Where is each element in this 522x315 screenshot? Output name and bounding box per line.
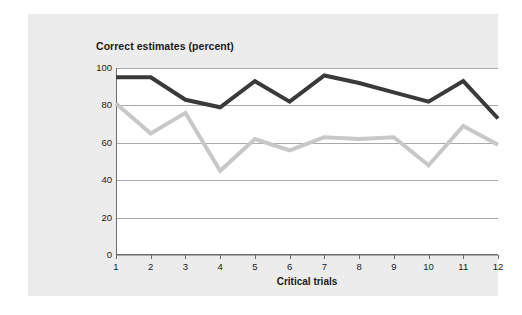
y-axis-tick-label: 0 (107, 249, 112, 260)
gridline (116, 255, 498, 256)
x-axis-tick-mark (151, 255, 152, 259)
series-line-dark-series (116, 75, 498, 118)
plot-wrapper: 123456789101112 (116, 68, 498, 255)
x-axis-tick-mark (429, 255, 430, 259)
x-axis-tick-label: 10 (423, 261, 434, 272)
x-axis-tick-label: 4 (218, 261, 223, 272)
x-axis-tick-mark (498, 255, 499, 259)
x-axis-tick-mark (220, 255, 221, 259)
x-axis-tick-label: 2 (148, 261, 153, 272)
y-axis-tick-label: 100 (96, 62, 112, 73)
x-axis-tick-mark (116, 255, 117, 259)
y-axis-tick-label: 80 (101, 99, 112, 110)
data-series-layer (116, 68, 498, 255)
x-axis-tick-label: 8 (356, 261, 361, 272)
x-axis-tick-mark (324, 255, 325, 259)
x-axis-title: Critical trials (116, 276, 498, 287)
x-axis-tick-label: 3 (183, 261, 188, 272)
x-axis-tick-mark (394, 255, 395, 259)
chart-panel: Correct estimates (percent) 020406080100… (28, 14, 498, 296)
x-axis-tick-mark (290, 255, 291, 259)
y-axis-tick-label: 40 (101, 174, 112, 185)
y-axis-tick-label: 20 (101, 212, 112, 223)
x-axis-tick-label: 9 (391, 261, 396, 272)
y-axis-tick-label: 60 (101, 137, 112, 148)
x-axis-tick-mark (185, 255, 186, 259)
x-axis-tick-label: 6 (287, 261, 292, 272)
x-axis-tick-label: 11 (458, 261, 468, 272)
x-axis-tick-mark (463, 255, 464, 259)
plot-area (116, 68, 498, 255)
figure-container: Correct estimates (percent) 020406080100… (0, 0, 522, 315)
x-axis-tick-mark (255, 255, 256, 259)
series-line-light-series (116, 104, 498, 171)
y-axis-tick-labels: 020406080100 (86, 68, 112, 255)
chart-title: Correct estimates (percent) (96, 40, 234, 52)
x-axis-tick-label: 5 (252, 261, 257, 272)
x-axis-tick-label: 7 (322, 261, 327, 272)
x-axis-tick-label: 1 (113, 261, 118, 272)
x-axis-tick-label: 12 (493, 261, 504, 272)
x-axis-tick-mark (359, 255, 360, 259)
